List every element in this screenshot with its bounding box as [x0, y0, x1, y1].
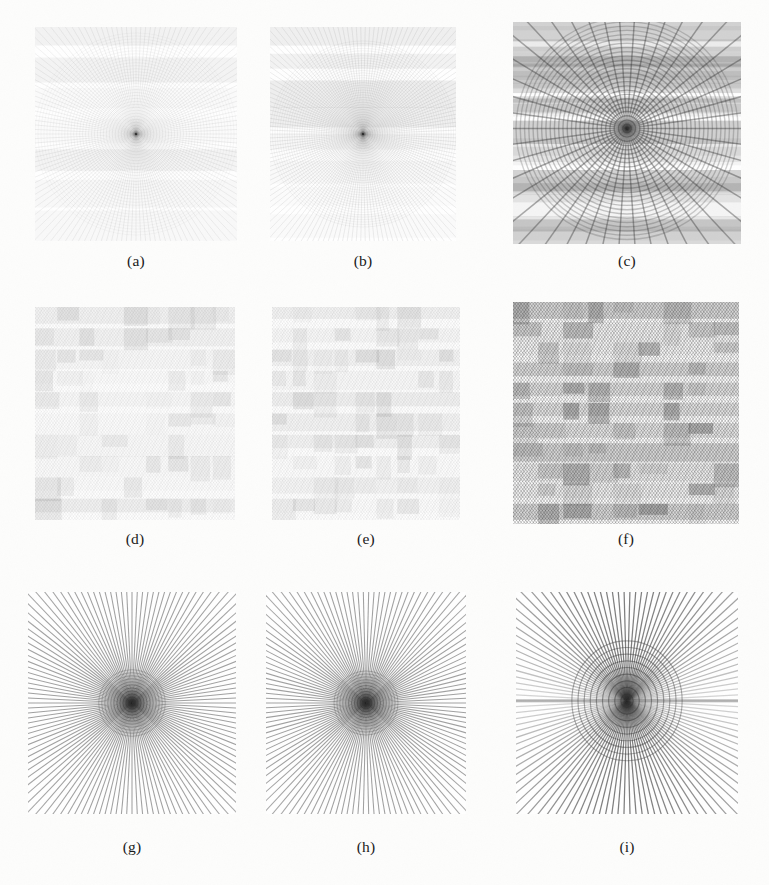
panel-image-c: [513, 22, 741, 244]
figure-panel-b: (b): [270, 27, 456, 281]
panel-image-h: [266, 592, 466, 814]
panel-caption-b: (b): [270, 252, 456, 270]
panel-image-a: [35, 27, 237, 241]
figure-panel-a: (a): [35, 27, 237, 281]
panel-image-b: [270, 27, 456, 241]
figure-panel-d: (d): [35, 307, 235, 560]
panel-caption-f: (f): [513, 530, 739, 548]
panel-caption-a: (a): [35, 252, 237, 270]
figure-panel-c: (c): [513, 22, 741, 284]
figure-panel-g: (g): [28, 592, 236, 854]
panel-image-f: [513, 302, 739, 524]
panel-caption-h: (h): [266, 838, 466, 856]
panel-image-g: [28, 592, 236, 814]
panel-caption-e: (e): [272, 530, 460, 548]
panel-image-d: [35, 307, 235, 520]
figure-panel-f: (f): [513, 302, 739, 564]
panel-image-e: [272, 307, 460, 520]
panel-caption-d: (d): [35, 530, 235, 548]
panel-caption-i: (i): [516, 838, 738, 856]
panel-image-i: [516, 592, 738, 814]
figure-panel-i: (i): [516, 592, 738, 854]
figure-panel-h: (h): [266, 592, 466, 854]
figure-panel-e: (e): [272, 307, 460, 560]
panel-caption-g: (g): [28, 838, 236, 856]
figure-image-grid: (a)(b)(c)(d)(e)(f)(g)(h)(i): [0, 0, 769, 885]
panel-caption-c: (c): [513, 252, 741, 270]
